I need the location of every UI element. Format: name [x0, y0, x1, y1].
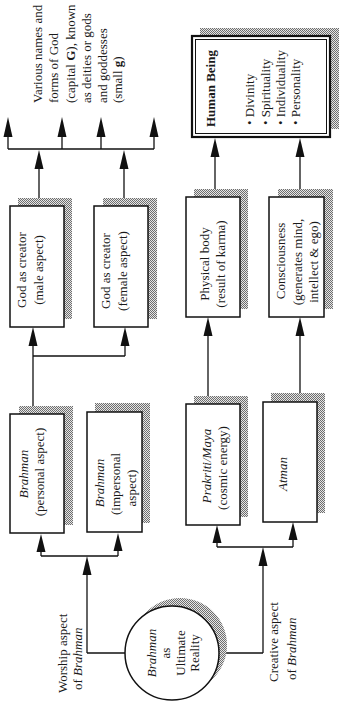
- label-text: of: [284, 666, 299, 680]
- label-text: of: [70, 676, 85, 690]
- label-italic: Brahman: [284, 618, 299, 666]
- node-label: Brahman: [92, 459, 107, 507]
- node-consciousness: Consciousness (generates mind, intellect…: [269, 189, 333, 317]
- arrowhead-up-icon: [4, 117, 13, 137]
- edge-label-line: Creative aspect: [266, 602, 281, 682]
- label-text: (capital: [63, 61, 78, 103]
- bullet-item: • Personality: [288, 58, 303, 125]
- arrowhead-up-icon: [296, 317, 305, 336]
- deities-label-line: as deities or gods: [79, 13, 94, 103]
- arrowhead-up-icon: [120, 150, 129, 169]
- edge-label-line: of Brahman: [70, 628, 85, 690]
- node-ultimate-reality: Brahman as Ultimate Reality: [125, 598, 227, 700]
- label-text: (small: [110, 67, 125, 103]
- node-label: Consciousness: [273, 223, 288, 300]
- brahman-diagram: Various names and forms of God (capital …: [0, 0, 350, 704]
- node-god-female: God as creator (female aspect): [94, 198, 157, 327]
- label-text: ), known: [63, 4, 78, 51]
- edge-label-line: Worship aspect: [55, 613, 70, 693]
- node-sublabel: (male aspect): [31, 235, 46, 305]
- node-label: as: [158, 648, 173, 659]
- connectors: [4, 117, 305, 653]
- arrowhead-up-icon: [29, 327, 38, 346]
- node-physical-body: Physical body (result of karma): [186, 189, 248, 317]
- label-text: ): [110, 56, 125, 60]
- worship-aspect-label: Worship aspect of Brahman: [55, 613, 85, 693]
- node-label: Reality: [187, 634, 202, 672]
- node-label: Physical body: [197, 227, 212, 301]
- node-label: Prakriti/Maya: [199, 428, 214, 504]
- node-sublabel: (result of karma): [213, 220, 228, 307]
- node-label: Ultimate: [173, 630, 188, 676]
- arrowhead-up-icon: [289, 522, 298, 540]
- node-brahman-impersonal: Brahman (impersonal aspect): [87, 403, 150, 532]
- bullet-item: • Spirituality: [258, 58, 273, 125]
- node-sublabel: (generates mind,: [290, 219, 305, 306]
- node-sublabel: aspect): [124, 470, 139, 507]
- node-sublabel: (female aspect): [115, 231, 130, 311]
- bullet-item: • Divinity: [242, 73, 257, 125]
- creative-aspect-label: Creative aspect of Brahman: [266, 602, 299, 682]
- node-god-male: God as creator (male aspect): [10, 198, 72, 327]
- arrowhead-up-icon: [83, 556, 92, 575]
- node-atman: Atman: [263, 393, 325, 522]
- node-label: Atman: [275, 457, 290, 492]
- arrowhead-up-icon: [37, 534, 46, 552]
- deities-label-line: (capital G), known: [63, 4, 78, 103]
- node-label: God as creator: [14, 231, 29, 307]
- box-frame: [263, 402, 317, 522]
- node-sublabel: (impersonal: [108, 453, 123, 515]
- arrowhead-up-icon: [58, 117, 67, 137]
- deities-label-line: forms of God: [46, 32, 61, 103]
- arrowhead-up-icon: [121, 327, 130, 346]
- deities-label-line: Various names and: [30, 4, 45, 103]
- node-label: God as creator: [98, 232, 113, 308]
- node-sublabel: (personal aspect): [32, 428, 47, 516]
- bullet-item: • Individuality: [273, 50, 288, 125]
- node-sublabel: (cosmic energy): [215, 426, 230, 510]
- arrowhead-up-icon: [97, 117, 106, 137]
- deities-label: Various names and forms of God (capital …: [30, 4, 125, 103]
- arrowhead-up-icon: [211, 138, 220, 157]
- arrowhead-up-icon: [259, 547, 268, 566]
- arrowhead-up-icon: [296, 138, 305, 157]
- label-italic: Brahman: [70, 628, 85, 676]
- node-brahman-personal: Brahman (personal aspect): [10, 406, 73, 533]
- arrowhead-up-icon: [35, 150, 44, 169]
- arrowhead-up-icon: [204, 317, 213, 336]
- label-bold-g: G: [63, 51, 78, 61]
- human-being-title: Human Being: [203, 50, 218, 127]
- node-label: Brahman: [144, 629, 159, 677]
- deities-label-line: and goddesses: [95, 28, 110, 103]
- arrowhead-up-icon: [213, 525, 222, 543]
- node-human-being: Human Being • Divinity • Spirituality • …: [192, 28, 339, 137]
- node-label: Brahman: [16, 450, 31, 498]
- node-prakriti-maya: Prakriti/Maya (cosmic energy): [186, 396, 248, 525]
- arrowhead-up-icon: [114, 533, 123, 551]
- edge-label-line: of Brahman: [284, 618, 299, 680]
- node-sublabel: intellect & ego): [306, 221, 321, 303]
- arrowhead-up-icon: [150, 117, 159, 137]
- deities-label-line: (small g): [110, 56, 125, 103]
